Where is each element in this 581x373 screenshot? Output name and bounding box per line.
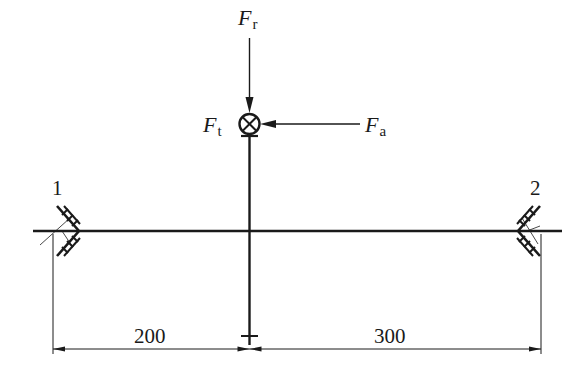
tangential-force-label: Ft — [202, 112, 222, 139]
radial-force-label: Fr — [237, 5, 257, 32]
tangential-force-into-page-icon — [240, 114, 260, 134]
radial-force-arrow — [246, 38, 254, 113]
axial-force-arrow — [260, 120, 360, 128]
shaft-diagram: Fr Ft Fa 1 2 — [0, 0, 581, 373]
bearing-2-label: 2 — [530, 176, 541, 200]
dimension-300-label: 300 — [374, 324, 406, 348]
axial-force-label: Fa — [364, 112, 386, 139]
dimension-200-label: 200 — [134, 324, 166, 348]
bearing-1-label: 1 — [52, 176, 63, 200]
